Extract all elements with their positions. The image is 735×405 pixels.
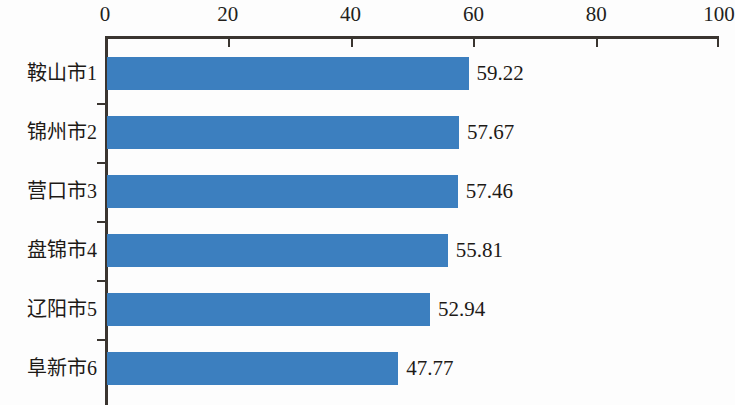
y-axis-tick-mark (97, 339, 107, 341)
y-axis-tick-mark (97, 162, 107, 164)
bar-value-label: 47.77 (406, 352, 453, 385)
x-axis-tick-label: 40 (340, 2, 361, 26)
bar-row: 盘锦市455.81 (0, 216, 733, 275)
x-axis-tick-label: 100 (703, 2, 735, 26)
y-axis-category-label: 鞍山市1 (0, 57, 97, 90)
bar (107, 57, 469, 90)
bar (107, 175, 458, 208)
bar-row: 辽阳市552.94 (0, 275, 733, 334)
x-axis-tick-label: 0 (100, 2, 111, 26)
bar-value-label: 57.67 (467, 116, 514, 149)
y-axis-category-label: 营口市3 (0, 175, 97, 208)
y-axis-category-label: 盘锦市4 (0, 234, 97, 267)
bar-row: 营口市357.46 (0, 157, 733, 216)
x-axis-tick-label: 80 (586, 2, 607, 26)
bar-row: 鞍山市159.22 (0, 39, 733, 98)
y-axis-category-label: 阜新市6 (0, 352, 97, 385)
x-axis-tick-label: 20 (217, 2, 238, 26)
x-axis-tick-label-group: 0 20 40 60 80 100 (0, 0, 733, 30)
bar-row: 锦州市257.67 (0, 98, 733, 157)
bar (107, 116, 459, 149)
bar (107, 352, 398, 385)
bar-value-label: 57.46 (466, 175, 513, 208)
y-axis-tick-mark (97, 221, 107, 223)
x-axis-tick-label: 60 (463, 2, 484, 26)
bar-row: 阜新市647.77 (0, 334, 733, 393)
y-axis-category-label: 锦州市2 (0, 116, 97, 149)
bar (107, 293, 430, 326)
y-axis-tick-mark (97, 280, 107, 282)
plot-area: 鞍山市159.22锦州市257.67营口市357.46盘锦市455.81辽阳市5… (0, 39, 733, 405)
bar-value-label: 55.81 (456, 234, 503, 267)
y-axis-tick-mark (97, 103, 107, 105)
bar (107, 234, 448, 267)
y-axis-category-label: 辽阳市5 (0, 293, 97, 326)
bar-value-label: 59.22 (477, 57, 524, 90)
bar-value-label: 52.94 (438, 293, 485, 326)
